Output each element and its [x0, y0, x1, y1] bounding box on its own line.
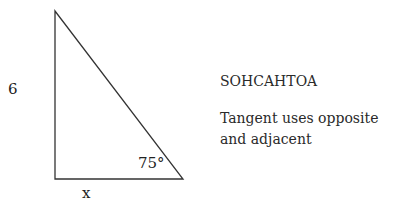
triangle-figure: [0, 0, 406, 205]
hint-text: Tangent uses opposite and adjacent: [220, 108, 400, 150]
vertical-side-label: 6: [8, 82, 18, 97]
mnemonic-text: SOHCAHTOA: [220, 71, 317, 92]
horizontal-side-label: x: [82, 186, 90, 201]
angle-label: 75°: [138, 156, 165, 171]
